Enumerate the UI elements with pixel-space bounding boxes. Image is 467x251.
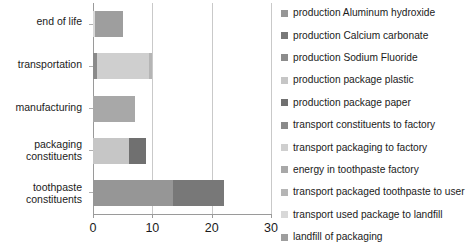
value-axis-tick-label: 10 [132,221,172,235]
bar-segment[interactable] [97,53,150,79]
stacked-bar[interactable] [93,11,123,37]
legend-item[interactable]: landfill of packaging [281,226,467,248]
legend-label: landfill of packaging [293,231,382,243]
legend-swatch-icon [281,10,288,17]
category-label: manufacturing [0,86,88,129]
legend-swatch-icon [281,189,288,196]
stacked-bar[interactable] [93,138,146,164]
bar-segment[interactable] [173,180,223,206]
legend-label: production Aluminum hydroxide [293,7,435,19]
legend-label: production Sodium Fluoride [293,52,418,64]
plot-area [93,3,271,214]
category-label: end of life [0,0,88,43]
value-axis-tick [93,214,94,218]
legend-swatch-icon [281,99,288,106]
stacked-bar[interactable] [93,53,152,79]
legend-swatch-icon [281,234,288,241]
bar-row [93,130,271,172]
bar-row [93,87,271,129]
bar-row [93,172,271,214]
bar-segment[interactable] [129,138,147,164]
gridline [271,3,272,214]
legend-label: energy in toothpaste factory [293,164,419,176]
legend-item[interactable]: production Sodium Fluoride [281,47,467,69]
category-label: packaging constituents [0,128,88,171]
bar-segment[interactable] [93,96,135,122]
category-axis-labels: end of lifetransportationmanufacturingpa… [0,0,88,214]
stacked-bar-chart: end of lifetransportationmanufacturingpa… [0,0,467,251]
legend-label: production package paper [293,97,411,109]
value-axis-tick-label: 0 [73,221,113,235]
bar-series-container [93,3,271,214]
bar-segment[interactable] [93,180,173,206]
legend-swatch-icon [281,211,288,218]
bar-segment[interactable] [93,138,129,164]
value-axis-tick [212,214,213,218]
legend-swatch-icon [281,122,288,129]
stacked-bar[interactable] [93,180,224,206]
legend-swatch-icon [281,77,288,84]
legend-label: production Calcium carbonate [293,30,428,42]
legend-item[interactable]: transport packaging to factory [281,136,467,158]
value-axis-tick [152,214,153,218]
category-label: transportation [0,43,88,86]
category-label: toothpaste constituents [0,171,88,214]
legend-item[interactable]: production Calcium carbonate [281,24,467,46]
bar-segment[interactable] [95,11,122,37]
legend-item[interactable]: transport used package to landfill [281,204,467,226]
value-axis-tick [271,214,272,218]
bar-row [93,45,271,87]
legend-item[interactable]: production package plastic [281,69,467,91]
legend-label: transport constituents to factory [293,119,435,131]
legend-item[interactable]: transport packaged toothpaste to user [281,181,467,203]
legend-item[interactable]: production package paper [281,92,467,114]
legend-label: transport packaged toothpaste to user [293,186,465,198]
legend-item[interactable]: transport constituents to factory [281,114,467,136]
legend-swatch-icon [281,144,288,151]
value-axis-line [93,214,272,215]
legend-label: transport used package to landfill [293,209,443,221]
bar-row [93,3,271,45]
legend-item[interactable]: energy in toothpaste factory [281,159,467,181]
legend-label: production package plastic [293,74,414,86]
bar-segment[interactable] [149,53,152,79]
stacked-bar[interactable] [93,96,135,122]
value-axis-tick-label: 20 [192,221,232,235]
chart-legend: production Aluminum hydroxideproduction … [281,2,467,251]
legend-item[interactable]: production Aluminum hydroxide [281,2,467,24]
legend-label: transport packaging to factory [293,142,427,154]
legend-swatch-icon [281,54,288,61]
legend-swatch-icon [281,166,288,173]
legend-swatch-icon [281,32,288,39]
